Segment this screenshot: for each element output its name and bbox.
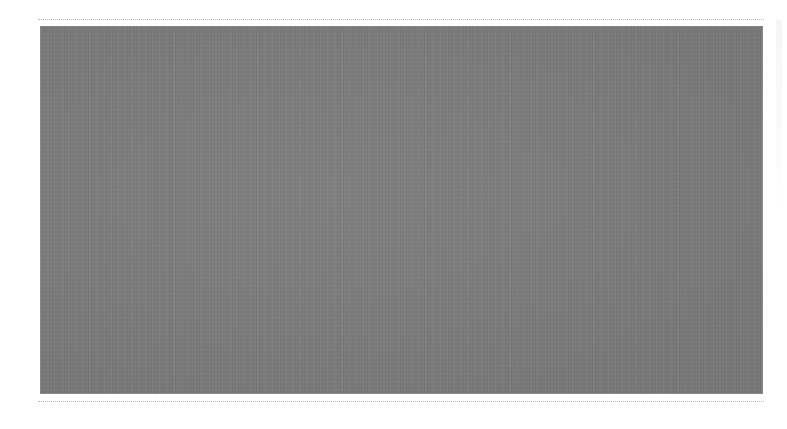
shading-overlay bbox=[40, 26, 763, 394]
image-placeholder bbox=[40, 26, 763, 394]
top-divider-rule bbox=[38, 19, 764, 20]
page-edge-artifact bbox=[776, 20, 782, 220]
bottom-divider-rule bbox=[38, 401, 764, 402]
